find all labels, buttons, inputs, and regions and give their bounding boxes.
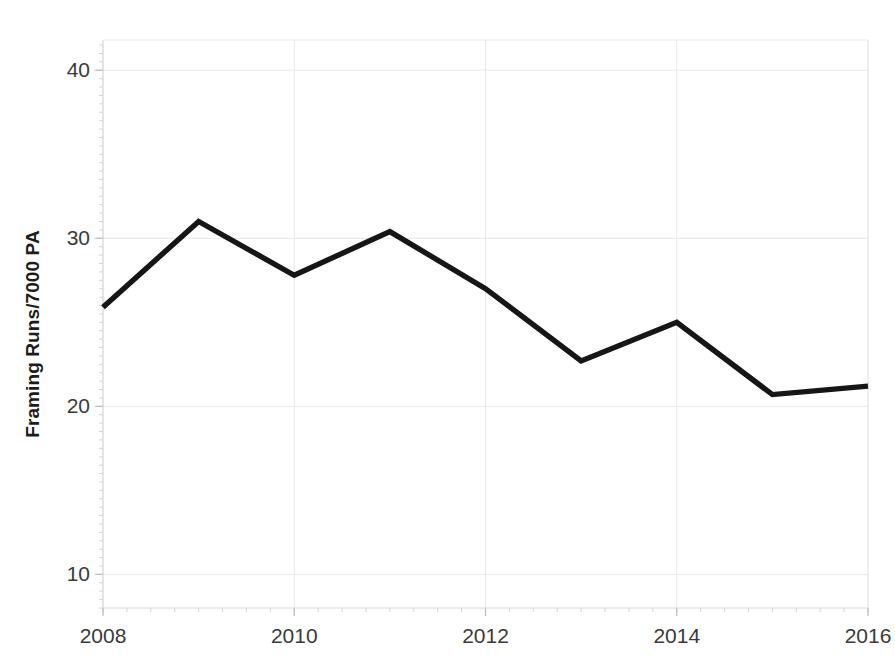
gridlines xyxy=(103,40,868,608)
y-tick-label-10: 10 xyxy=(40,562,90,586)
axis-ticks xyxy=(95,45,868,616)
y-tick-label-30: 30 xyxy=(40,226,90,250)
x-tick-label-2012: 2012 xyxy=(462,624,509,648)
y-tick-label-20: 20 xyxy=(40,394,90,418)
x-tick-label-2008: 2008 xyxy=(80,624,127,648)
x-tick-label-2010: 2010 xyxy=(271,624,318,648)
x-tick-label-2014: 2014 xyxy=(653,624,700,648)
line-chart-plot xyxy=(0,0,895,668)
y-tick-label-40: 40 xyxy=(40,58,90,82)
chart-container: Framing Runs/7000 PA 10203040 2008201020… xyxy=(0,0,895,668)
x-tick-label-2016: 2016 xyxy=(845,624,892,648)
